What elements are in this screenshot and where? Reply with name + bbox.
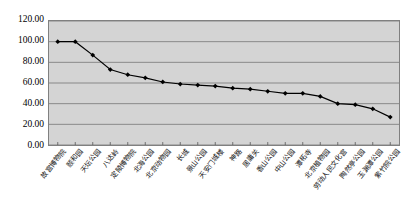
y-axis-tick-label: 60.00	[23, 78, 44, 88]
data-point-marker	[125, 72, 130, 77]
data-point-marker	[388, 115, 393, 120]
data-point-marker	[265, 89, 270, 94]
y-axis-tick-label: 40.00	[23, 99, 44, 109]
y-axis-tick-label: 100.00	[18, 36, 44, 46]
y-axis-tick-label: 80.00	[23, 57, 44, 67]
data-point-marker	[230, 86, 235, 91]
data-point-marker	[143, 75, 148, 80]
data-point-marker	[335, 101, 340, 106]
data-point-marker	[160, 80, 165, 85]
chart-container: 0.0020.0040.0060.0080.00100.00120.00 故宫博…	[0, 0, 417, 216]
data-point-marker	[283, 91, 288, 96]
data-line	[58, 42, 391, 117]
data-point-marker	[248, 87, 253, 92]
data-point-marker	[213, 84, 218, 89]
x-axis-labels: 故宫博物院颐和园天坛公园八达岭定陵博物院北海公园北京动物园长城景山公园天安门城楼…	[0, 146, 417, 216]
data-point-marker	[318, 94, 323, 99]
data-point-marker	[178, 82, 183, 87]
data-point-marker	[353, 102, 358, 107]
y-axis-tick-label: 120.00	[18, 15, 44, 25]
y-axis-tick-label: 20.00	[23, 120, 44, 130]
data-point-marker	[300, 91, 305, 96]
data-point-marker	[55, 39, 60, 44]
